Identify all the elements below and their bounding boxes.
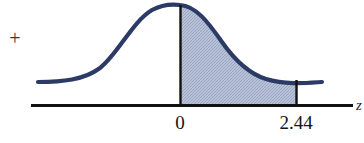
x-axis-label: z bbox=[356, 98, 362, 113]
normal-distribution-figure: + 0 2.44 z bbox=[0, 0, 364, 143]
plus-mark-annotation: + bbox=[6, 29, 24, 47]
x-tick-label-zero: 0 bbox=[160, 113, 200, 132]
x-tick-label-critical-value: 2.44 bbox=[258, 113, 334, 132]
